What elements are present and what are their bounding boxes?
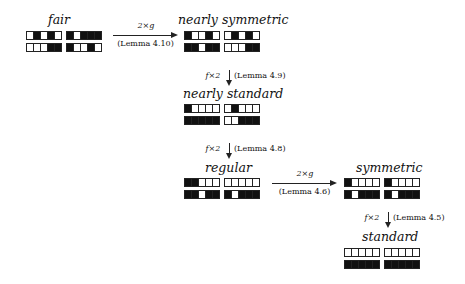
- grid-row: [344, 260, 420, 269]
- cell-empty: [406, 179, 413, 186]
- cell-block: [224, 190, 260, 199]
- cell-empty: [192, 105, 199, 112]
- cell-empty: [225, 117, 232, 124]
- cell-filled: [192, 44, 199, 51]
- grid-row: [26, 43, 102, 52]
- cell-filled: [253, 117, 259, 124]
- grid-symmetric: [344, 178, 420, 202]
- cell-filled: [213, 117, 219, 124]
- cell-block: [26, 31, 62, 40]
- arrow-line: [272, 183, 332, 184]
- cell-empty: [392, 249, 399, 256]
- grid-row: [184, 31, 260, 40]
- cell-filled: [399, 191, 406, 198]
- cell-empty: [373, 179, 379, 186]
- cell-filled: [359, 191, 366, 198]
- cell-block: [384, 190, 420, 199]
- node-title-symmetric: symmetric: [356, 160, 423, 175]
- grid-row: [184, 104, 260, 113]
- cell-block: [224, 104, 260, 113]
- cell-block: [184, 104, 220, 113]
- arrow-down-icon: [226, 153, 232, 159]
- cell-empty: [213, 32, 219, 39]
- cell-filled: [34, 32, 41, 39]
- edge-ref-label: (Lemma 4.8): [234, 144, 286, 153]
- edge-ref-label: (Lemma 4.5): [393, 213, 445, 222]
- cell-empty: [413, 249, 419, 256]
- grid-nearly-symmetric: [184, 31, 260, 55]
- cell-filled: [232, 105, 239, 112]
- cell-empty: [206, 179, 213, 186]
- cell-empty: [359, 249, 366, 256]
- cell-filled: [225, 191, 232, 198]
- cell-filled: [345, 261, 352, 268]
- cell-empty: [352, 179, 359, 186]
- edge-op-label: 2×g: [290, 169, 320, 178]
- cell-empty: [246, 105, 253, 112]
- cell-empty: [399, 249, 406, 256]
- arrow-line: [113, 35, 173, 36]
- edge-ref-label: (Lemma 4.9): [234, 71, 286, 80]
- cell-empty: [34, 44, 41, 51]
- cell-block: [184, 178, 220, 187]
- cell-empty: [95, 44, 101, 51]
- grid-standard: [344, 248, 420, 272]
- cell-filled: [352, 261, 359, 268]
- cell-empty: [225, 32, 232, 39]
- cell-filled: [373, 261, 379, 268]
- cell-empty: [199, 105, 206, 112]
- cell-filled: [246, 32, 253, 39]
- cell-empty: [213, 179, 219, 186]
- arrow-right-icon: [171, 32, 178, 38]
- cell-filled: [206, 32, 213, 39]
- cell-filled: [385, 191, 392, 198]
- cell-empty: [413, 179, 419, 186]
- cell-empty: [253, 105, 259, 112]
- cell-filled: [185, 179, 192, 186]
- edge-ref-label: (Lemma 4.10): [113, 39, 178, 48]
- cell-filled: [392, 261, 399, 268]
- cell-empty: [246, 179, 253, 186]
- cell-empty: [225, 44, 232, 51]
- cell-empty: [225, 105, 232, 112]
- cell-empty: [206, 105, 213, 112]
- arrow-right-icon: [330, 180, 337, 186]
- cell-filled: [406, 191, 413, 198]
- cell-empty: [239, 179, 246, 186]
- cell-filled: [213, 191, 219, 198]
- cell-empty: [253, 179, 259, 186]
- cell-empty: [192, 32, 199, 39]
- cell-filled: [239, 191, 246, 198]
- cell-empty: [41, 44, 48, 51]
- cell-block: [224, 116, 260, 125]
- arrow-down-icon: [385, 222, 391, 228]
- edge-op-label: f×2: [203, 71, 223, 80]
- cell-block: [344, 248, 380, 257]
- cell-empty: [392, 191, 399, 198]
- cell-empty: [225, 179, 232, 186]
- cell-filled: [253, 191, 259, 198]
- cell-empty: [232, 179, 239, 186]
- cell-filled: [185, 105, 192, 112]
- cell-filled: [192, 117, 199, 124]
- cell-empty: [74, 32, 81, 39]
- cell-filled: [385, 179, 392, 186]
- cell-filled: [246, 191, 253, 198]
- cell-filled: [206, 191, 213, 198]
- cell-filled: [185, 191, 192, 198]
- node-title-regular: regular: [205, 160, 252, 175]
- grid-nearly-standard: [184, 104, 260, 128]
- cell-empty: [74, 44, 81, 51]
- cell-filled: [232, 32, 239, 39]
- cell-empty: [199, 32, 206, 39]
- cell-empty: [81, 44, 88, 51]
- grid-regular: [184, 178, 260, 202]
- edge-op-label: 2×g: [131, 21, 161, 30]
- cell-filled: [95, 32, 101, 39]
- cell-empty: [232, 191, 239, 198]
- grid-row: [184, 116, 260, 125]
- grid-row: [184, 43, 260, 52]
- cell-empty: [345, 249, 352, 256]
- cell-filled: [366, 191, 373, 198]
- cell-filled: [246, 117, 253, 124]
